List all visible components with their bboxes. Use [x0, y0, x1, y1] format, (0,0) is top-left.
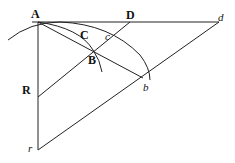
label-R: R — [22, 84, 31, 96]
label-r: r — [28, 143, 32, 154]
label-C: C — [80, 29, 89, 41]
diagram-lines — [0, 0, 235, 163]
label-b: b — [143, 82, 149, 93]
geometry-diagram: A D d C c B b R r — [0, 0, 235, 163]
label-d: d — [218, 12, 224, 23]
line-A-b — [38, 22, 143, 78]
label-A: A — [31, 8, 40, 20]
arc-large — [8, 22, 150, 80]
label-D: D — [126, 9, 135, 21]
label-B: B — [88, 54, 96, 66]
line-r-d — [38, 22, 219, 150]
label-c: c — [105, 31, 110, 42]
